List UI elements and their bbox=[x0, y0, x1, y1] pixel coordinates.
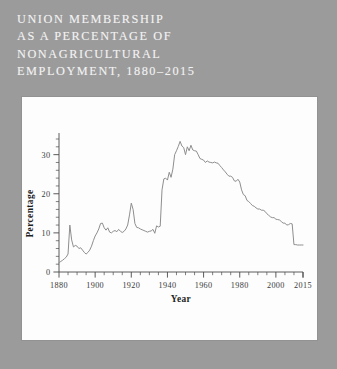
y-axis-title: Percentage bbox=[25, 189, 35, 237]
x-tick-label: 1980 bbox=[231, 281, 249, 290]
x-tick-label: 2015 bbox=[294, 281, 312, 290]
union-membership-series bbox=[59, 141, 303, 262]
chart-axes bbox=[59, 133, 303, 272]
y-tick-label: 30 bbox=[42, 151, 51, 160]
y-tick-label: 20 bbox=[42, 190, 51, 199]
y-tick-label: 10 bbox=[42, 229, 51, 238]
y-tick-label: 0 bbox=[46, 268, 50, 277]
chart-ticks bbox=[53, 139, 303, 278]
chart-tick-labels: 188019001920194019601980200020150102030 bbox=[42, 151, 312, 290]
x-tick-label: 1960 bbox=[195, 281, 213, 290]
x-axis-title: Year bbox=[171, 294, 191, 304]
union-membership-line-chart: 188019001920194019601980200020150102030 … bbox=[22, 97, 317, 340]
x-tick-label: 1900 bbox=[86, 281, 104, 290]
x-tick-label: 1940 bbox=[159, 281, 177, 290]
page-title: UNION MEMBERSHIP AS A PERCENTAGE OF NONA… bbox=[17, 11, 317, 81]
x-tick-label: 1920 bbox=[122, 281, 140, 290]
x-tick-label: 1880 bbox=[50, 281, 68, 290]
x-tick-label: 2000 bbox=[267, 281, 285, 290]
poster-page: UNION MEMBERSHIP AS A PERCENTAGE OF NONA… bbox=[0, 0, 337, 369]
chart-panel: 188019001920194019601980200020150102030 … bbox=[22, 97, 317, 340]
